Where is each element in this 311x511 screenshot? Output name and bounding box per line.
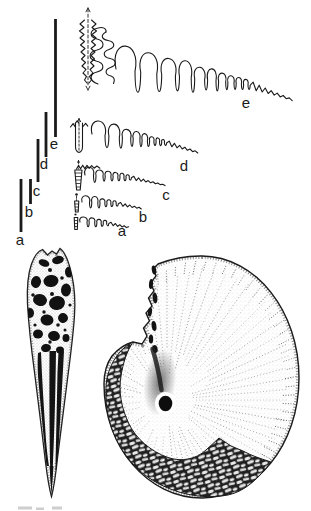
ventral-lobe-dot-a — [74, 213, 76, 215]
umbilicus — [159, 396, 173, 412]
suture-main-curve-e — [115, 46, 292, 101]
suture-main-curve-b — [82, 196, 142, 209]
scale-bar-label-b: b — [25, 203, 33, 220]
ventral-view-illustration — [26, 249, 75, 497]
figure-page: a b c d e — [0, 0, 311, 511]
suture-labels: a b c d e — [118, 94, 250, 239]
suture-label-a: a — [118, 222, 127, 239]
suture-line-d — [71, 119, 198, 154]
caption-fragment — [18, 507, 62, 511]
suture-line-c — [75, 161, 165, 191]
figure-canvas: a b c d e — [0, 0, 311, 511]
frilled-saddle-right-e — [102, 32, 115, 84]
suture-diagrams — [71, 8, 293, 230]
scale-bar-label-e: e — [50, 135, 58, 152]
suture-line-b — [75, 193, 142, 212]
scale-bars — [21, 19, 56, 232]
suture-main-curve-d — [91, 121, 197, 153]
scale-bar-label-c: c — [33, 182, 41, 199]
suture-line-e — [80, 8, 293, 101]
scale-bar-label-d: d — [40, 155, 48, 172]
suture-label-d: d — [180, 157, 188, 174]
scale-bar-label-a: a — [16, 231, 25, 248]
suture-label-c: c — [162, 186, 170, 203]
suture-label-e: e — [242, 94, 250, 111]
suture-main-curve-c — [85, 167, 165, 185]
suture-label-b: b — [139, 208, 147, 225]
frilled-saddle-left-e — [90, 27, 106, 84]
ventral-lobe-dot-b — [75, 193, 78, 196]
lateral-shell-illustration — [104, 256, 299, 498]
ventral-lobe-frill-left-e — [80, 20, 88, 83]
